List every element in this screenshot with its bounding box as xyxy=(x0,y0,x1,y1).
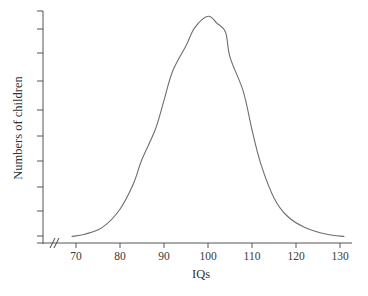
x-tick-label: 90 xyxy=(158,250,170,262)
x-tick-label: 110 xyxy=(244,250,261,262)
iq-distribution-chart: 708090100110120130 IQs Numbers of childr… xyxy=(0,0,368,296)
x-tick-label: 70 xyxy=(70,250,82,262)
x-tick-label: 130 xyxy=(331,250,349,262)
x-tick-label: 120 xyxy=(287,250,305,262)
x-axis-ticks: 708090100110120130 xyxy=(70,243,349,262)
x-tick-label: 80 xyxy=(114,250,126,262)
x-tick-label: 100 xyxy=(199,250,217,262)
distribution-curve xyxy=(72,16,345,236)
y-axis-label: Numbers of children xyxy=(11,76,25,180)
x-axis-label: IQs xyxy=(192,267,210,281)
y-axis-ticks xyxy=(37,11,43,236)
